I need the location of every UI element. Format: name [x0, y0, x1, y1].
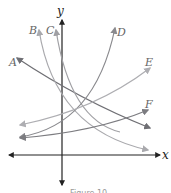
curve-c-label: C	[46, 24, 55, 37]
curve-f	[20, 110, 148, 138]
graph-figure: y x A B C D E F Figure 10	[0, 0, 171, 193]
curve-b-label: B	[28, 24, 37, 37]
curve-d-label: D	[116, 26, 126, 39]
curve-a	[17, 58, 150, 128]
figure-caption: Figure 10	[70, 189, 107, 193]
y-axis-label: y	[56, 4, 64, 18]
x-axis-label: x	[162, 148, 169, 162]
curve-e-label: E	[144, 56, 153, 69]
curve-b	[39, 30, 148, 150]
curve-d	[20, 28, 115, 137]
curve-a-label: A	[8, 56, 17, 69]
curve-f-label: F	[144, 98, 153, 111]
